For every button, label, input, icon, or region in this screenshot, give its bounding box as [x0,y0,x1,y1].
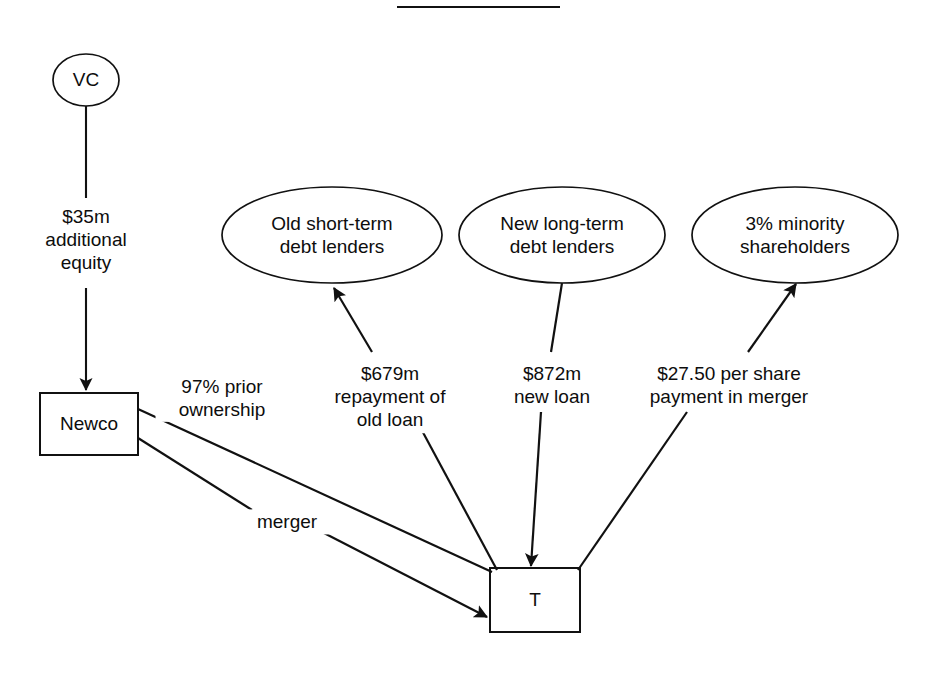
edge-target-to-minority-lower [578,412,687,570]
edge-target-to-old-debt-lower [412,412,497,570]
edge-target-to-minority-upper [748,284,796,352]
node-new-debt-lenders-shape[interactable] [459,187,665,283]
node-old-debt-lenders-shape[interactable] [222,187,442,283]
diagram-graphics [0,0,941,679]
edge-new-debt-to-target-upper [551,283,562,352]
edge-newco-merger-to-target-upper [138,438,252,510]
diagram-canvas: Step 2 (continued) VC Old short-term deb… [0,0,941,679]
edge-target-to-old-debt-upper [334,288,372,352]
node-minority-shareholders-shape[interactable] [692,187,898,283]
edge-newco-ownership-to-target [138,409,492,572]
node-newco-shape[interactable] [40,393,138,455]
edge-new-debt-to-target-lower [531,412,541,566]
edge-newco-merger-to-target-lower [322,532,487,617]
node-vc-shape[interactable] [53,54,119,106]
node-target-shape[interactable] [490,568,580,632]
